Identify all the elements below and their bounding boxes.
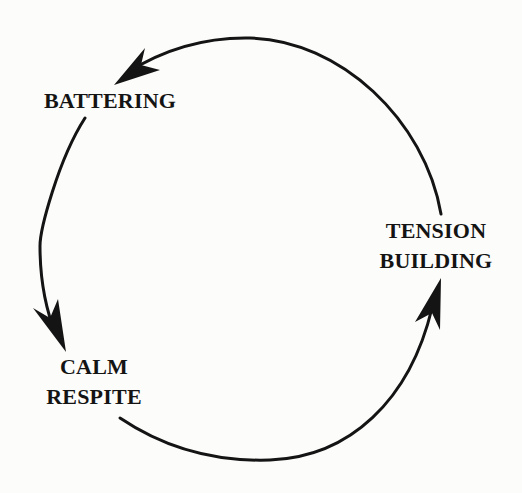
stage-tension-building: TENSION BUILDING <box>366 216 506 276</box>
stage-calm-respite-line-1: CALM <box>34 352 154 382</box>
arrow-tension-to-battering <box>128 38 441 214</box>
stage-calm-respite: CALM RESPITE <box>34 352 154 412</box>
stage-tension-building-line-2: BUILDING <box>366 246 506 276</box>
arrowhead-battering-icon <box>114 48 160 85</box>
stage-battering: BATTERING <box>30 86 190 116</box>
stage-battering-line-1: BATTERING <box>30 86 190 116</box>
arrowhead-calm-icon <box>33 299 66 352</box>
arrow-calm-to-tension <box>120 308 432 460</box>
stage-calm-respite-line-2: RESPITE <box>34 382 154 412</box>
arrow-battering-to-calm <box>40 118 85 335</box>
stage-tension-building-line-1: TENSION <box>366 216 506 246</box>
cycle-diagram: BATTERING CALM RESPITE TENSION BUILDING <box>0 0 522 493</box>
